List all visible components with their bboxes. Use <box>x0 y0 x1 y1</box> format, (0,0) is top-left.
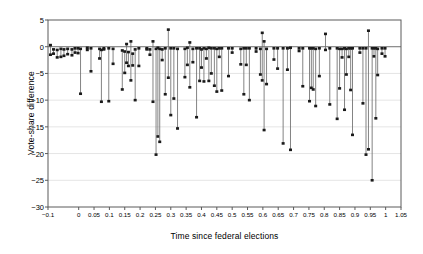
y-tick-label: −15 <box>22 122 44 131</box>
x-tick-label: 0.35 <box>180 211 192 218</box>
y-axis-title: Vote-share difference <box>0 38 106 188</box>
y-axis-title-container: Vote-share difference <box>2 18 16 208</box>
x-tick-label: 0.85 <box>334 211 346 218</box>
y-tick-label: −25 <box>22 176 44 185</box>
y-tick-label: −20 <box>22 149 44 158</box>
y-tick-label: −5 <box>22 69 44 78</box>
x-tick-label: 0.65 <box>272 211 284 218</box>
x-tick-label: 0.7 <box>289 211 298 218</box>
x-tick-label: 0.1 <box>105 211 114 218</box>
x-tick-label: 0.8 <box>320 211 329 218</box>
x-tick-label: 0.2 <box>136 211 145 218</box>
x-tick-label: 1.05 <box>395 211 407 218</box>
x-tick-label: 0 <box>77 211 80 218</box>
y-tick-label: −10 <box>22 96 44 105</box>
y-tick-label: 0 <box>22 42 44 51</box>
x-tick-label: −0.1 <box>42 211 54 218</box>
x-tick-label: 0.15 <box>119 211 131 218</box>
x-tick-label: 0.25 <box>149 211 161 218</box>
x-axis-title: Time since federal elections <box>48 231 401 241</box>
x-tick-label: 1 <box>384 211 387 218</box>
x-tick-label: 0.75 <box>303 211 315 218</box>
x-tick-label: 0.05 <box>88 211 100 218</box>
x-tick-label: 0.5 <box>228 211 237 218</box>
x-tick-label: 0.6 <box>259 211 268 218</box>
x-tick-label: 0.45 <box>211 211 223 218</box>
x-tick-label: 0.4 <box>197 211 206 218</box>
x-axis-tick-labels: −0.100.050.10.150.20.250.30.350.40.450.5… <box>0 211 423 223</box>
x-tick-label: 0.3 <box>166 211 175 218</box>
chart-figure: Vote-share difference 50−5−10−15−20−25−3… <box>0 0 423 254</box>
x-tick-label: 0.95 <box>364 211 376 218</box>
x-tick-label: 0.55 <box>241 211 253 218</box>
x-tick-label: 0.9 <box>351 211 360 218</box>
y-tick-label: 5 <box>22 16 44 25</box>
